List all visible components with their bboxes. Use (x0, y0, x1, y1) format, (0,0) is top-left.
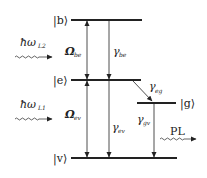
level-g: |g⟩ (137, 97, 195, 111)
omega-ev-sub: ev (74, 114, 82, 121)
omega-be-sub: be (74, 51, 82, 58)
omega-be-arrow: Ω be (64, 21, 87, 79)
wavy-arrow-icon (160, 138, 184, 140)
wavy-arrow-icon (15, 56, 39, 58)
level-v: |v⟩ (53, 152, 177, 166)
laser-l2-sub: L2 (37, 42, 46, 49)
gamma-be-arrow: γ be (109, 21, 127, 79)
level-e: |e⟩ (53, 74, 141, 88)
laser-l2-symbol: ħω (20, 36, 36, 49)
level-e-label: |e⟩ (53, 74, 68, 88)
gamma-eg-sub: eg (155, 87, 163, 95)
gamma-eg-arrow: γ eg (133, 80, 163, 101)
gamma-ev-arrow: γ ev (109, 81, 126, 157)
gamma-ev-sub: ev (118, 127, 126, 134)
gamma-gv-sub: gv (143, 119, 151, 127)
level-b-label: |b⟩ (53, 14, 68, 28)
pl-photon: PL (160, 125, 196, 140)
omega-ev-arrow: Ω ev (64, 81, 87, 157)
wavy-arrow-icon (15, 118, 39, 120)
energy-level-diagram: |b⟩ |e⟩ |g⟩ |v⟩ Ω be γ be Ω ev γ ev γ eg (0, 0, 207, 178)
laser-l1-photon: ħω L1 (15, 98, 52, 120)
gamma-be-sub: be (119, 51, 127, 58)
pl-label: PL (170, 125, 185, 138)
laser-l1-symbol: ħω (20, 98, 36, 111)
level-b: |b⟩ (53, 14, 142, 28)
laser-l2-photon: ħω L2 (15, 36, 52, 58)
level-v-label: |v⟩ (53, 152, 67, 166)
level-g-label: |g⟩ (180, 97, 195, 111)
laser-l1-sub: L1 (37, 104, 46, 111)
gamma-gv-arrow: γ gv (137, 104, 154, 157)
